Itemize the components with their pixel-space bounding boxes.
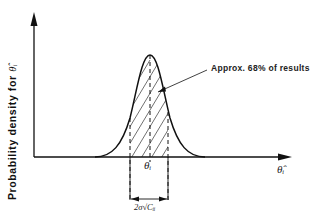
width-label: 2σ√Cᵢᵢ xyxy=(134,202,155,212)
hatched-region xyxy=(90,60,220,160)
y-axis-label-text: Probability density for xyxy=(6,75,18,200)
normal-distribution-diagram xyxy=(0,0,311,222)
y-axis-label: Probability density for θ̂ᵢ xyxy=(6,64,18,200)
annotation-arrow-icon xyxy=(158,87,166,93)
center-theta-label: θᵢ xyxy=(144,159,151,171)
x-axis-label: θ̂ᵢ xyxy=(277,163,284,175)
y-axis-label-symbol: θ̂ᵢ xyxy=(7,64,18,72)
width-arrow-right-icon xyxy=(159,197,167,202)
annotation-label: Approx. 68% of results xyxy=(211,63,310,73)
width-arrow-left-icon xyxy=(131,197,139,202)
y-axis-arrow-icon xyxy=(31,12,38,26)
x-axis-arrow-icon xyxy=(278,154,292,161)
